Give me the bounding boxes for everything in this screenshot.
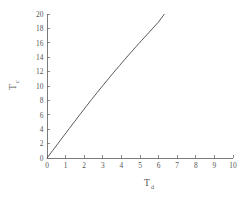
x-tick-label: 4 <box>120 161 124 170</box>
x-tick-label: 8 <box>194 161 198 170</box>
y-axis-title-subscript: c <box>13 80 20 83</box>
x-tick-label: 9 <box>213 161 217 170</box>
chart-plot-area: 012345678910 02468101214161820 T d T c <box>0 0 251 198</box>
x-tick-label: 7 <box>175 161 179 170</box>
chart-figure: 012345678910 02468101214161820 T d T c <box>0 0 251 198</box>
y-tick-label: 8 <box>40 96 44 105</box>
y-tick-label: 18 <box>36 24 44 33</box>
x-tick-label: 5 <box>138 161 142 170</box>
x-tick-label: 1 <box>64 161 68 170</box>
y-tick-label: 10 <box>36 82 44 91</box>
y-axis-title-text: T <box>7 84 18 90</box>
y-tick-label: 16 <box>36 39 44 48</box>
data-series-curve <box>47 14 164 158</box>
y-tick-label: 14 <box>36 53 44 62</box>
y-tick-label: 2 <box>40 139 44 148</box>
x-axis-tick-labels: 012345678910 <box>45 161 237 170</box>
x-tick-label: 3 <box>101 161 105 170</box>
x-tick-label: 10 <box>229 161 237 170</box>
y-axis-tick-labels: 02468101214161820 <box>36 10 44 163</box>
x-tick-label: 0 <box>45 161 49 170</box>
x-tick-label: 6 <box>157 161 161 170</box>
x-axis-title-subscript: d <box>151 183 155 190</box>
x-axis-title-text: T <box>144 177 150 188</box>
x-tick-label: 2 <box>82 161 86 170</box>
y-axis-title: T c <box>7 80 20 90</box>
y-tick-label: 12 <box>36 67 44 76</box>
x-axis-title: T d <box>144 177 155 190</box>
y-tick-label: 20 <box>36 10 44 19</box>
y-tick-label: 4 <box>40 125 44 134</box>
y-tick-label: 6 <box>40 111 44 120</box>
y-tick-label: 0 <box>40 154 44 163</box>
